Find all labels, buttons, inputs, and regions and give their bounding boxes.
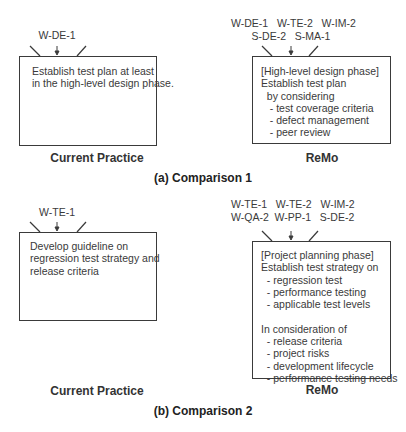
comparison-1-caption: (a) Comparison 1: [143, 171, 263, 185]
current-practice-label: Current Practice: [37, 384, 157, 398]
remo-label: ReMo: [292, 383, 352, 397]
remo-tags-line-1: W-TE-1 W-TE-2 W-IM-2: [231, 198, 351, 211]
remo-tags-line-1: W-DE-1 W-TE-2 W-IM-2: [231, 17, 351, 30]
current-practice-tag: W-DE-1: [27, 29, 87, 42]
current-practice-box: Establish test plan at least in the high…: [19, 56, 157, 146]
current-practice-box: Develop guideline on regression test str…: [19, 232, 157, 321]
current-practice-label: Current Practice: [37, 151, 157, 165]
remo-tags-line-2: S-DE-2 S-MA-1: [251, 30, 331, 43]
remo-tags-line-2: W-QA-2 W-PP-1 S-DE-2: [231, 211, 351, 224]
remo-label: ReMo: [292, 151, 352, 165]
comparison-2-caption: (b) Comparison 2: [143, 404, 263, 418]
current-practice-tag: W-TE-1: [27, 206, 87, 219]
callout-notch-right: [77, 46, 86, 56]
remo-text: [Project planning phase] Establish test …: [261, 249, 398, 384]
current-practice-text: Establish test plan at least in the high…: [32, 65, 174, 90]
remo-text: [High-level design phase] Establish test…: [261, 65, 379, 139]
callout-notch-left: [30, 46, 40, 56]
remo-box: [High-level design phase] Establish test…: [252, 56, 391, 144]
remo-box: [Project planning phase] Establish test …: [252, 241, 391, 379]
current-practice-text: Develop guideline on regression test str…: [30, 240, 160, 277]
